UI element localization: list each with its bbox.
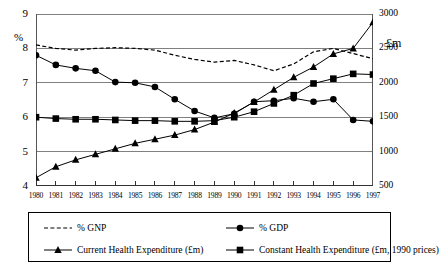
data-point-marker xyxy=(191,118,198,125)
circle-line-key-icon xyxy=(225,222,255,234)
left-axis-unit-label: % xyxy=(14,31,23,43)
right-axis-tick-label: 2500 xyxy=(379,43,413,53)
series-line-1 xyxy=(36,55,373,121)
data-point-marker xyxy=(251,108,258,115)
data-point-marker xyxy=(152,117,159,124)
left-axis-tick-label: 4 xyxy=(6,180,28,191)
right-axis-tick-label: 2000 xyxy=(379,78,413,88)
data-point-marker xyxy=(350,71,357,78)
data-point-marker xyxy=(171,96,178,103)
legend-item[interactable]: Current Health Expenditure (£m) xyxy=(43,237,203,262)
left-axis-tick-label: 8 xyxy=(6,42,28,53)
legend-item[interactable]: Constant Health Expenditure (£m, 1990 pr… xyxy=(225,237,439,262)
series-line-2 xyxy=(36,22,373,177)
data-point-marker xyxy=(231,114,238,121)
data-point-marker xyxy=(92,116,99,123)
data-point-marker xyxy=(191,108,198,115)
chart-legend: % GNP% GDPCurrent Health Expenditure (£m… xyxy=(28,212,391,262)
data-point-marker xyxy=(310,63,317,70)
data-point-marker xyxy=(270,86,277,93)
right-axis-tick-label: 1000 xyxy=(379,147,413,157)
data-point-marker xyxy=(370,118,373,125)
legend-label: % GDP xyxy=(259,223,288,233)
data-point-marker xyxy=(53,115,60,122)
data-point-marker xyxy=(36,114,39,121)
legend-key xyxy=(225,244,255,256)
data-point-marker xyxy=(92,67,99,74)
right-axis-tick-label: 1500 xyxy=(379,112,413,122)
data-point-marker xyxy=(53,62,60,69)
plot-area xyxy=(36,14,373,186)
data-point-marker xyxy=(330,96,337,103)
data-point-marker xyxy=(350,117,357,124)
chart-canvas xyxy=(36,14,373,186)
left-axis-tick-label: 6 xyxy=(6,111,28,122)
left-axis-tick-label: 5 xyxy=(6,146,28,157)
dashed-line-key-icon xyxy=(43,222,73,234)
data-point-marker xyxy=(310,98,317,105)
square-line-key-icon xyxy=(225,244,255,256)
data-point-marker xyxy=(112,79,119,86)
data-point-marker xyxy=(369,18,373,25)
data-point-marker xyxy=(290,73,297,80)
legend-label: Constant Health Expenditure (£m, 1990 pr… xyxy=(259,245,439,255)
legend-label: Current Health Expenditure (£m) xyxy=(77,245,203,255)
triangle-line-key-icon xyxy=(43,244,73,256)
x-axis-tick-label: 1997 xyxy=(361,192,385,200)
legend-label: % GNP xyxy=(77,223,106,233)
left-axis-tick-label: 7 xyxy=(6,77,28,88)
data-point-marker xyxy=(132,117,139,124)
data-point-marker xyxy=(36,174,40,181)
right-axis-tick-label: 500 xyxy=(379,181,413,191)
data-point-marker xyxy=(152,84,159,91)
data-point-marker xyxy=(290,92,297,99)
data-point-marker xyxy=(132,80,139,87)
data-point-marker xyxy=(211,117,218,124)
data-point-marker xyxy=(112,117,119,124)
data-point-marker xyxy=(330,75,337,82)
data-point-marker xyxy=(370,71,373,78)
data-point-marker xyxy=(36,52,39,59)
right-axis-tick-label: 3000 xyxy=(379,9,413,19)
data-point-marker xyxy=(310,80,317,87)
data-point-marker xyxy=(72,116,79,123)
data-point-marker xyxy=(171,118,178,125)
data-point-marker xyxy=(72,65,79,72)
legend-key xyxy=(43,222,73,234)
legend-key xyxy=(43,244,73,256)
legend-key xyxy=(225,222,255,234)
left-axis-tick-label: 9 xyxy=(6,8,28,19)
data-point-marker xyxy=(271,100,278,107)
